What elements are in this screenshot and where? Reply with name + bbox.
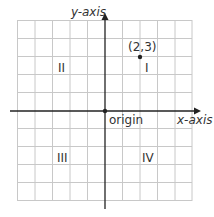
axes	[10, 17, 197, 209]
point-2-3	[138, 55, 142, 59]
quadrant-1-label: I	[145, 62, 149, 74]
quadrant-4-label: IV	[142, 152, 154, 164]
x-axis-label: x-axis	[177, 114, 212, 126]
quadrant-2-label: II	[58, 62, 65, 74]
quadrant-3-label: III	[57, 152, 68, 164]
coordinate-plane	[0, 0, 214, 217]
point-label: (2,3)	[128, 41, 156, 53]
origin-label: origin	[109, 114, 143, 126]
origin-dot	[103, 109, 107, 113]
y-axis-label: y-axis	[71, 6, 106, 18]
